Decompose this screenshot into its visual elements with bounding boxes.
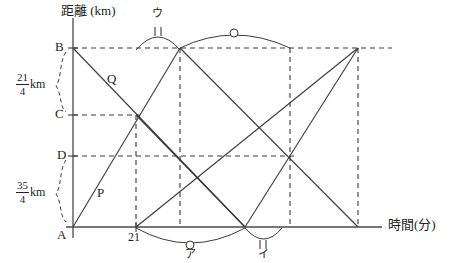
arc-i-path <box>245 228 282 239</box>
line-rise-to-right-top <box>136 48 358 227</box>
brace-bottom <box>56 160 66 222</box>
fraction-numerator: 21 <box>16 71 29 85</box>
arc-label-u: ウ <box>152 8 163 19</box>
arc-label-a: ア <box>185 249 196 260</box>
unit-km: km <box>30 78 45 90</box>
line-fall-to-axis <box>136 115 245 227</box>
line-label-Q: Q <box>107 72 116 85</box>
arc-unlabeled-circle-marker <box>230 29 238 37</box>
brace-label-top: 21 4 km <box>16 71 45 97</box>
brace-label-bottom: 35 4 km <box>16 179 45 205</box>
line-fall-from-peak <box>180 48 358 227</box>
point-label-D: D <box>57 148 66 161</box>
point-label-A: A <box>57 228 66 241</box>
fraction-21-over-4: 21 4 <box>16 71 29 97</box>
line-P-ascending <box>73 48 180 227</box>
point-label-B: B <box>55 40 64 53</box>
fraction-35-over-4: 35 4 <box>16 179 29 205</box>
y-axis-label: 距離 (km) <box>61 4 116 17</box>
line-label-P: P <box>97 186 104 199</box>
unit-km: km <box>30 186 45 198</box>
line-rise-second <box>245 48 358 227</box>
point-label-C: C <box>55 107 64 120</box>
arc-label-i: イ <box>258 249 269 260</box>
fraction-numerator: 35 <box>16 179 29 193</box>
brace-top <box>56 52 66 112</box>
x-axis-label: 時間(分) <box>388 218 436 231</box>
x-tick-label-21: 21 <box>128 231 140 243</box>
geometry-figure: 距離 (km) 時間(分) B C D A 21 4 km 35 4 km P … <box>0 0 461 263</box>
fraction-denominator: 4 <box>16 85 29 98</box>
fraction-denominator: 4 <box>16 193 29 206</box>
